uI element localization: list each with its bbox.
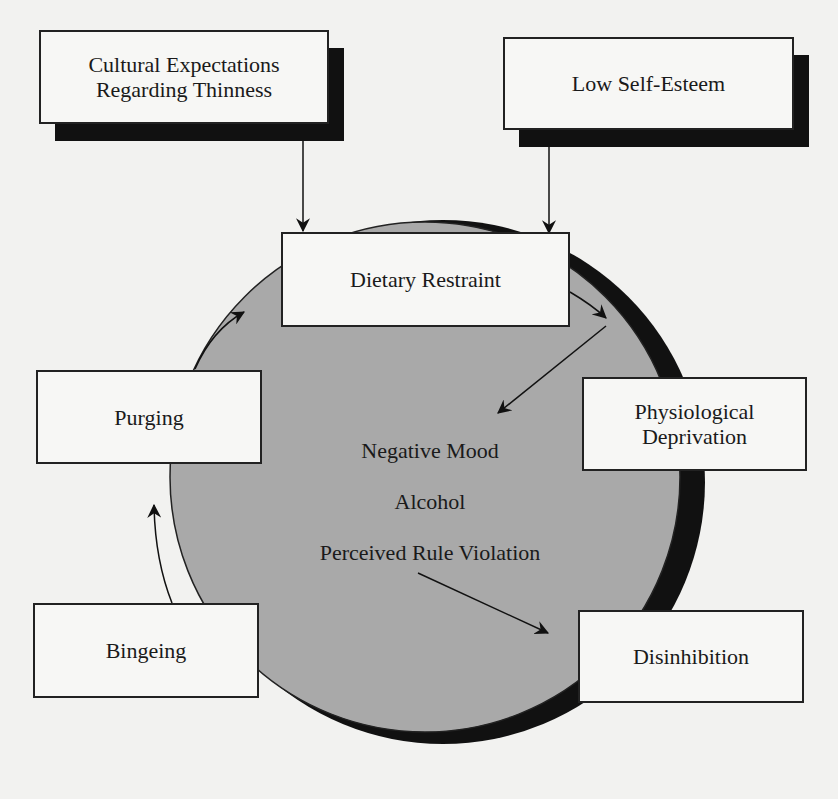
node-bingeing: Bingeing xyxy=(33,603,259,698)
center-factor-negative-mood: Negative Mood xyxy=(280,438,580,464)
node-low-self-esteem: Low Self-Esteem xyxy=(503,37,794,130)
arrow-bingeing-to-purging xyxy=(154,505,172,603)
node-physiological-deprivation: Physiological Deprivation xyxy=(582,377,807,471)
center-factor-alcohol: Alcohol xyxy=(280,489,580,515)
node-disinhibition: Disinhibition xyxy=(578,610,804,703)
center-factor-perceived-rule-violation: Perceived Rule Violation xyxy=(280,540,580,566)
node-dietary-restraint: Dietary Restraint xyxy=(281,232,570,327)
node-cultural-expectations: Cultural Expectations Regarding Thinness xyxy=(39,30,329,124)
node-purging: Purging xyxy=(36,370,262,464)
